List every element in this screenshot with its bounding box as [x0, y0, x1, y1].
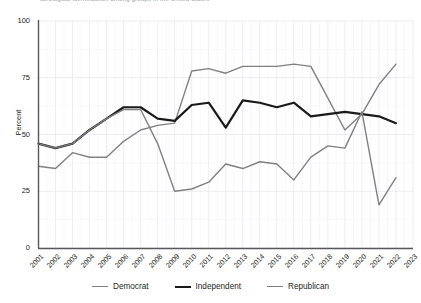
legend-item-independent[interactable]: Independent [175, 282, 242, 291]
plot-area [0, 0, 421, 303]
gridlines [39, 20, 414, 248]
chart-legend: Democrat Independent Republican [0, 282, 421, 291]
legend-label-republican: Republican [288, 282, 329, 291]
legend-swatch-republican [267, 286, 283, 287]
legend-swatch-independent [175, 286, 191, 288]
legend-label-independent: Independent [196, 282, 242, 291]
legend-item-republican[interactable]: Republican [267, 282, 329, 291]
legend-item-democrat[interactable]: Democrat [92, 282, 149, 291]
legend-swatch-democrat [92, 286, 108, 287]
legend-label-democrat: Democrat [113, 282, 149, 291]
chart-container: ideological identification among groups … [0, 0, 421, 303]
